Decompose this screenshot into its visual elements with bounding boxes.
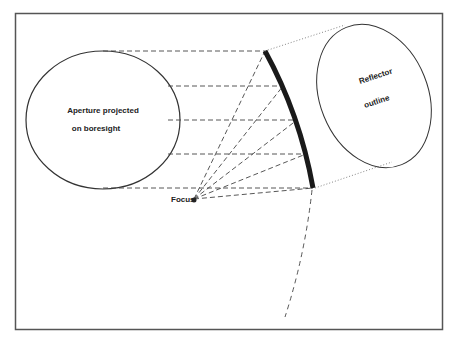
parabola-continuation bbox=[285, 190, 312, 317]
reflector-outline-ellipse bbox=[296, 7, 452, 185]
aperture-circle bbox=[26, 51, 180, 189]
aperture-label-line2: on boresight bbox=[72, 124, 121, 133]
focus-label: Focus bbox=[171, 195, 195, 204]
aperture-label-line1: Aperture projected bbox=[67, 106, 139, 115]
boresight-rays bbox=[103, 51, 313, 188]
reflector-label-line2: outline bbox=[363, 93, 391, 110]
diagram-canvas: Aperture projected on boresight Focus Re… bbox=[0, 0, 453, 338]
diagram-frame bbox=[16, 14, 443, 330]
reflector-label-line1: Reflector bbox=[358, 67, 394, 86]
